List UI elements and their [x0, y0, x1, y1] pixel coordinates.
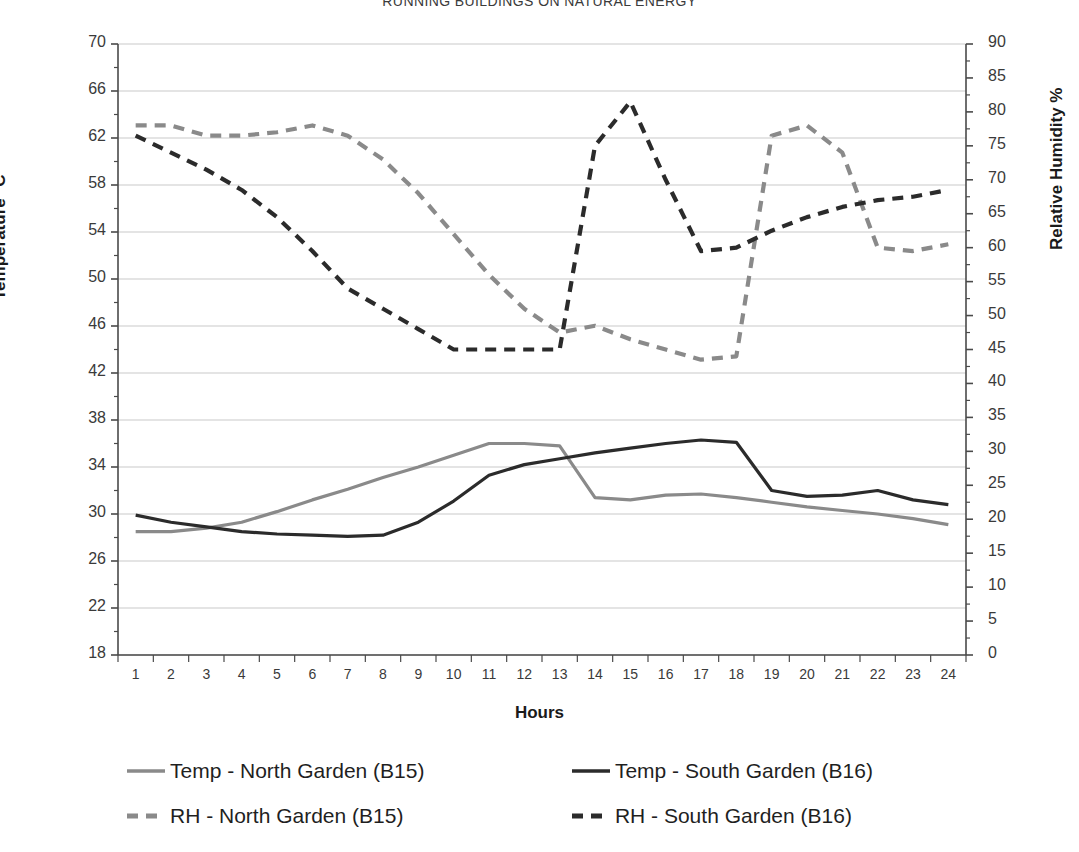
x-tick-1: 1: [121, 666, 151, 682]
y-tick-left-34: 34: [60, 456, 106, 474]
y-tick-left-66: 66: [60, 80, 106, 98]
x-tick-24: 24: [933, 666, 963, 682]
legend-label-rh-south: RH - South Garden (B16): [615, 804, 852, 828]
legend-label-rh-north: RH - North Garden (B15): [170, 804, 403, 828]
y-tick-right-75: 75: [988, 135, 1034, 153]
series-line-2: [136, 125, 949, 359]
y-tick-left-62: 62: [60, 127, 106, 145]
x-tick-22: 22: [863, 666, 893, 682]
y-tick-left-42: 42: [60, 362, 106, 380]
y-tick-right-15: 15: [988, 542, 1034, 560]
legend-row-rh: RH - North Garden (B15) RH - South Garde…: [118, 793, 988, 838]
y-tick-right-50: 50: [988, 305, 1034, 323]
x-tick-7: 7: [333, 666, 363, 682]
y-tick-right-5: 5: [988, 610, 1034, 628]
legend-item-rh-north[interactable]: RH - North Garden (B15): [118, 804, 559, 828]
y-tick-left-22: 22: [60, 597, 106, 615]
y-tick-left-58: 58: [60, 174, 106, 192]
x-tick-21: 21: [827, 666, 857, 682]
x-tick-23: 23: [898, 666, 928, 682]
legend-item-temp-north[interactable]: Temp - North Garden (B15): [118, 759, 559, 783]
x-tick-2: 2: [156, 666, 186, 682]
legend-row-temp: Temp - North Garden (B15) Temp - South G…: [118, 748, 988, 793]
y-tick-left-38: 38: [60, 409, 106, 427]
x-tick-17: 17: [686, 666, 716, 682]
y-tick-left-50: 50: [60, 268, 106, 286]
y-tick-right-70: 70: [988, 169, 1034, 187]
axis-spine-bottom: [118, 655, 966, 662]
legend-label-temp-north: Temp - North Garden (B15): [170, 759, 424, 783]
y-tick-right-40: 40: [988, 372, 1034, 390]
axis-spine-left: [111, 44, 118, 655]
x-tick-12: 12: [509, 666, 539, 682]
y-tick-right-90: 90: [988, 33, 1034, 51]
series-line-1: [136, 440, 949, 536]
legend-swatch-rh-south: [571, 809, 611, 823]
legend-swatch-rh-north: [126, 809, 166, 823]
y-axis-right-title: Relative Humidity %: [1047, 88, 1067, 251]
x-tick-10: 10: [439, 666, 469, 682]
x-tick-16: 16: [651, 666, 681, 682]
y-tick-right-85: 85: [988, 67, 1034, 85]
y-tick-right-20: 20: [988, 508, 1034, 526]
y-tick-right-55: 55: [988, 271, 1034, 289]
y-tick-left-18: 18: [60, 644, 106, 662]
chart-title: RUNNING BUILDINGS ON NATURAL ENERGY: [0, 0, 1079, 9]
x-tick-19: 19: [757, 666, 787, 682]
x-tick-18: 18: [721, 666, 751, 682]
legend-item-temp-south[interactable]: Temp - South Garden (B16): [559, 759, 988, 783]
legend-swatch-temp-north: [126, 764, 166, 778]
y-tick-right-0: 0: [988, 644, 1034, 662]
x-tick-9: 9: [403, 666, 433, 682]
x-tick-5: 5: [262, 666, 292, 682]
plot-area: [118, 44, 966, 655]
y-tick-left-54: 54: [60, 221, 106, 239]
x-tick-3: 3: [191, 666, 221, 682]
y-tick-right-60: 60: [988, 237, 1034, 255]
y-tick-right-80: 80: [988, 101, 1034, 119]
y-tick-left-30: 30: [60, 503, 106, 521]
chart-figure: RUNNING BUILDINGS ON NATURAL ENERGY Temp…: [0, 0, 1079, 852]
y-tick-left-70: 70: [60, 33, 106, 51]
y-axis-left-title: Temperature °C: [0, 174, 10, 300]
x-tick-11: 11: [474, 666, 504, 682]
x-tick-6: 6: [297, 666, 327, 682]
plot-canvas: [118, 44, 966, 655]
y-tick-right-45: 45: [988, 339, 1034, 357]
axis-spine-right: [966, 44, 973, 655]
y-tick-right-25: 25: [988, 474, 1034, 492]
x-tick-4: 4: [227, 666, 257, 682]
y-tick-left-46: 46: [60, 315, 106, 333]
series-line-0: [136, 444, 949, 532]
x-tick-14: 14: [580, 666, 610, 682]
legend-item-rh-south[interactable]: RH - South Garden (B16): [559, 804, 988, 828]
x-tick-8: 8: [368, 666, 398, 682]
legend-swatch-temp-south: [571, 764, 611, 778]
x-tick-13: 13: [545, 666, 575, 682]
legend-label-temp-south: Temp - South Garden (B16): [615, 759, 873, 783]
y-tick-right-10: 10: [988, 576, 1034, 594]
y-tick-right-65: 65: [988, 203, 1034, 221]
y-tick-left-26: 26: [60, 550, 106, 568]
x-tick-20: 20: [792, 666, 822, 682]
x-axis-title: Hours: [0, 703, 1079, 723]
x-tick-15: 15: [615, 666, 645, 682]
chart-legend: Temp - North Garden (B15) Temp - South G…: [118, 748, 988, 838]
y-tick-right-30: 30: [988, 440, 1034, 458]
y-tick-right-35: 35: [988, 406, 1034, 424]
